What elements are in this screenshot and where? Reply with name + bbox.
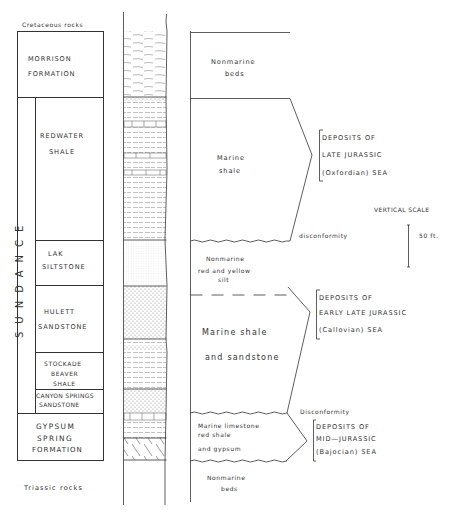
unit-redwater-line1: REDWATER	[40, 133, 84, 140]
unit-canyon-springs-line2: SANDSTONE	[39, 402, 79, 408]
sea-mid-jurassic-line1: DEPOSITS OF	[316, 424, 370, 431]
unit-gypsum-line2: SPRING	[37, 435, 73, 442]
sea-late-jurassic-line2: LATE JURASSIC	[322, 152, 382, 159]
late-jurassic-wedge	[191, 99, 313, 242]
env-nonmarine-bottom-line1: Nonmarine	[207, 475, 246, 481]
sea-late-jurassic-line3: (Oxfordian) SEA	[322, 170, 388, 177]
vertical-scale-title: VERTICAL SCALE	[374, 207, 429, 213]
env-nonmarine-silt-line2: red and yellow	[198, 268, 251, 274]
top-context-label: Cretaceous rocks	[22, 22, 83, 28]
bottom-context-label: Triassic rocks	[24, 485, 83, 492]
env-marine-shale-line2: shale	[219, 168, 241, 175]
upper-disconformity-label: disconformity	[299, 233, 348, 239]
unit-canyon-springs-line1: CANYON SPRINGS	[36, 393, 94, 399]
env-marine-shale-sandstone-line2: and sandstone	[205, 354, 280, 362]
sea-early-late-jurassic-line1: DEPOSITS OF	[319, 295, 373, 302]
unit-hulett-line1: HULETT	[44, 309, 75, 316]
unit-redwater-line2: SHALE	[49, 149, 75, 156]
group-name-label: SUNDANCE	[14, 198, 38, 358]
env-marine-limestone-line2: red shale	[198, 432, 231, 438]
sea-mid-jurassic-line2: MID—JURASSIC	[316, 436, 377, 443]
basal-contact	[191, 460, 287, 462]
sea-early-late-jurassic-line2: EARLY LATE JURASSIC	[319, 310, 407, 317]
env-nonmarine-top-line1: Nonmarine	[211, 59, 256, 66]
env-marine-shale-sandstone-line1: Marine shale	[202, 329, 268, 337]
env-marine-shale-line1: Marine	[217, 155, 245, 162]
env-nonmarine-silt-line3: silt	[218, 277, 229, 283]
unit-gypsum-line3: FORMATION	[32, 447, 83, 454]
unit-morrison-line1: MORRISON	[28, 56, 72, 63]
unit-stockade-line3: SHALE	[53, 381, 76, 387]
unit-lak-line1: LAK	[48, 251, 63, 258]
unit-morrison-line2: FORMATION	[28, 71, 75, 78]
lower-disconformity	[191, 412, 288, 414]
lower-disconformity-label: Disconformity	[300, 409, 350, 415]
sea-mid-jurassic-line3: (Bajocian) SEA	[316, 449, 377, 456]
lithologic-column	[124, 12, 168, 505]
env-marine-limestone-line3: and gypsum	[198, 446, 241, 452]
mid-jurassic-wedge	[286, 413, 307, 461]
unit-lak-line2: SILTSTONE	[42, 264, 86, 271]
unit-gypsum-line1: GYPSUM	[36, 423, 75, 430]
env-marine-limestone-line1: Marine limestone	[198, 423, 260, 429]
env-nonmarine-top-line2: beds	[225, 71, 244, 78]
sea-early-late-jurassic-line3: (Callovian) SEA	[319, 327, 383, 334]
unit-stockade-line1: STOCKADE	[44, 361, 82, 367]
upper-disconformity	[191, 240, 291, 242]
unit-hulett-line2: SANDSTONE	[38, 324, 87, 331]
env-nonmarine-bottom-line2: beds	[221, 486, 238, 492]
sea-late-jurassic-line1: DEPOSITS OF	[322, 135, 376, 142]
unit-stockade-line2: BEAVER	[51, 371, 78, 377]
early-late-jurassic-wedge	[287, 287, 310, 413]
vertical-scale-value: 50 ft.	[419, 233, 438, 239]
env-nonmarine-silt-line1: Nonmarine	[206, 256, 245, 262]
